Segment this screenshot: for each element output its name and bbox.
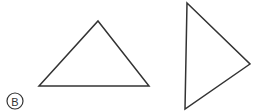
- left-triangle-shape: [39, 21, 149, 86]
- right-triangle-shape: [185, 3, 250, 109]
- figure-panel: B: [0, 0, 259, 112]
- label-badge-letter: B: [11, 96, 18, 108]
- figure-canvas: B: [0, 0, 259, 112]
